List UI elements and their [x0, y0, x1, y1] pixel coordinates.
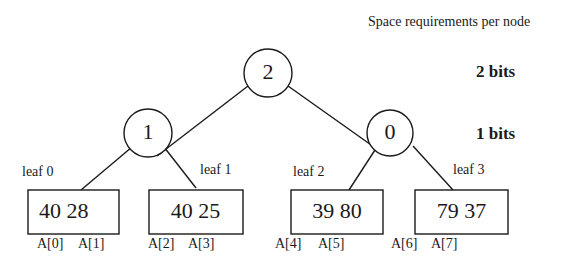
- index-a6: A[6]: [391, 236, 417, 252]
- index-a5: A[5]: [318, 236, 344, 252]
- space-requirements-header: Space requirements per node: [368, 14, 530, 30]
- index-a3: A[3]: [188, 236, 214, 252]
- leaf3-values: 79 37: [415, 198, 508, 224]
- node1-value: 1: [128, 119, 168, 145]
- index-a1: A[1]: [78, 236, 104, 252]
- level-2-bits-label: 2 bits: [476, 62, 515, 82]
- edge-node1-to-leaf1: [164, 147, 196, 188]
- index-a2: A[2]: [148, 236, 174, 252]
- index-a0: A[0]: [37, 236, 63, 252]
- leaf2-values: 39 80: [291, 198, 383, 224]
- leaf1-values: 40 25: [148, 198, 243, 224]
- index-a7: A[7]: [431, 236, 457, 252]
- edge-node0-to-leaf2: [349, 150, 375, 190]
- node0-value: 0: [370, 119, 410, 145]
- leaf0-values: 40 28: [39, 198, 89, 224]
- edge-node0-to-leaf3: [413, 146, 453, 190]
- root-node-value: 2: [248, 59, 288, 85]
- edge-node1-to-leaf0: [81, 147, 132, 190]
- index-a4: A[4]: [275, 236, 301, 252]
- leaf0-label: leaf 0: [22, 164, 53, 180]
- leaf2-label: leaf 2: [293, 164, 324, 180]
- leaf1-label: leaf 1: [200, 162, 231, 178]
- leaf3-label: leaf 3: [453, 162, 484, 178]
- edge-root-to-node0: [288, 86, 374, 147]
- edge-root-to-node1: [157, 86, 248, 156]
- level-1-bits-label: 1 bits: [476, 124, 515, 144]
